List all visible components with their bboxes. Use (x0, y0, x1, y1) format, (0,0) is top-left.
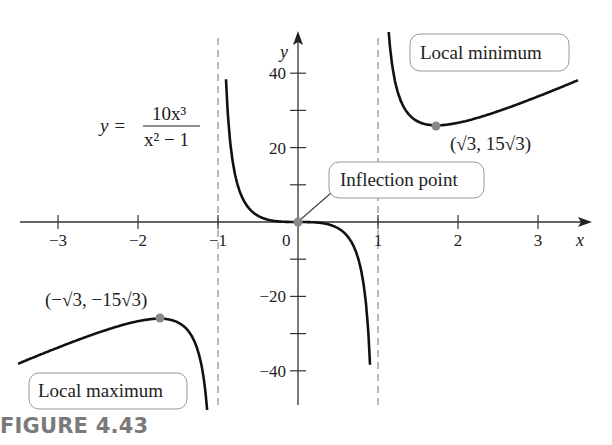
y-tick-label: −20 (259, 287, 286, 306)
y-tick-label: 20 (269, 139, 286, 158)
x-tick-label: 3 (534, 231, 543, 250)
svg-text:10x³: 10x³ (152, 103, 187, 124)
y-tick-label: 40 (269, 64, 286, 83)
x-axis: −3−2−10123 x (20, 215, 592, 250)
equation-label: y = 10x³ x² − 1 (98, 103, 200, 150)
svg-text:Local minimum: Local minimum (420, 42, 542, 63)
local-minimum-callout: Local minimum (410, 34, 569, 71)
svg-text:Local maximum: Local maximum (38, 380, 163, 401)
y-tick-label: −40 (259, 362, 286, 381)
function-graph: −3−2−10123 x −40−202040 y y = 10x³ x² − … (0, 0, 612, 445)
x-axis-label: x (575, 230, 584, 250)
x-tick-label: −2 (129, 231, 147, 250)
figure-caption: FIGURE 4.43 (0, 414, 148, 438)
svg-text:Inflection point: Inflection point (340, 169, 458, 190)
x-tick-label: 1 (374, 231, 383, 250)
inflection-point-callout: Inflection point (300, 162, 484, 220)
x-tick-label: 0 (282, 231, 291, 250)
local-minimum-coordinates: (√3, 15√3) (450, 133, 531, 155)
local-maximum-point (156, 314, 165, 323)
local-minimum-point (432, 122, 441, 131)
y-axis-label: y (278, 42, 288, 62)
x-tick-label: −3 (49, 231, 67, 250)
local-maximum-coordinates: (−√3, −15√3) (45, 289, 147, 311)
inflection-point-marker (294, 218, 303, 227)
x-tick-label: −1 (209, 231, 227, 250)
svg-text:x² − 1: x² − 1 (144, 129, 189, 150)
svg-text:y =: y = (98, 115, 126, 136)
x-tick-label: 2 (454, 231, 463, 250)
local-maximum-callout: Local maximum (29, 373, 187, 409)
